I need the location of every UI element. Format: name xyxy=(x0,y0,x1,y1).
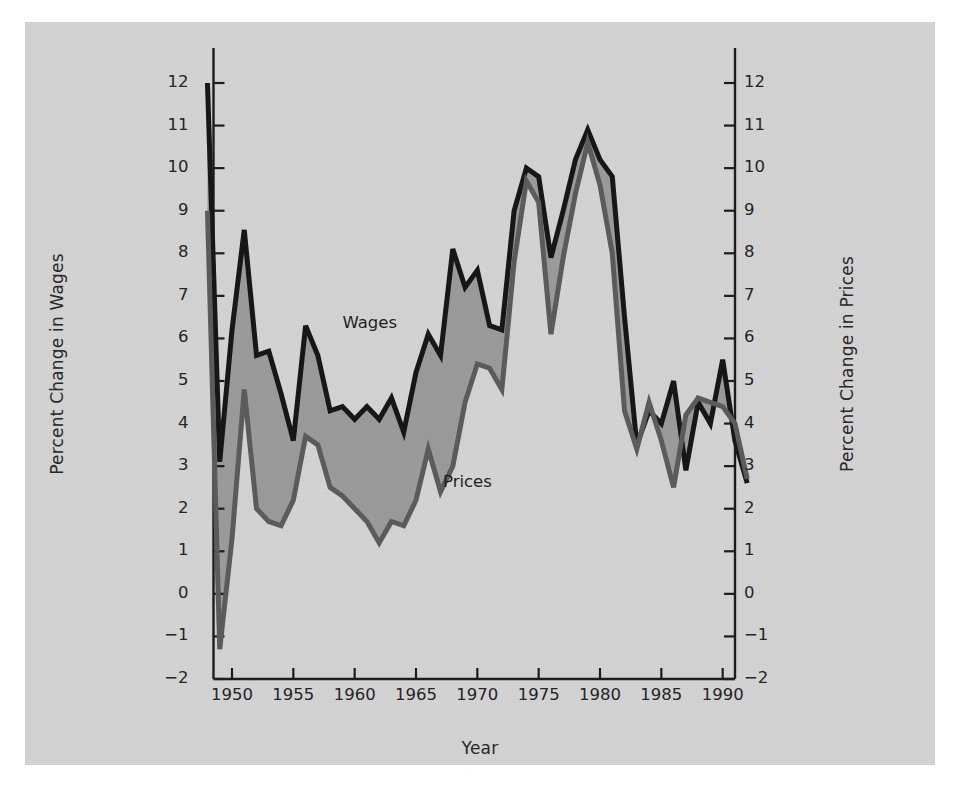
y-axis-right-tick-label: 2 xyxy=(744,498,778,517)
y-axis-right-tick-label: 8 xyxy=(744,242,778,261)
y-axis-right-tick-label: 5 xyxy=(744,370,778,389)
y-axis-right-tick-label: 6 xyxy=(744,327,778,346)
y-axis-right-tick-label: 7 xyxy=(744,285,778,304)
y-axis-left-tick-label: −1 xyxy=(155,625,189,644)
line-chart-plot xyxy=(0,0,967,798)
y-axis-right-tick-label: −1 xyxy=(744,625,778,644)
y-axis-left-tick-label: 1 xyxy=(155,540,189,559)
x-axis-tick-label: 1950 xyxy=(197,685,267,704)
y-axis-left-tick-label: 11 xyxy=(155,115,189,134)
x-axis-tick-label: 1990 xyxy=(688,685,758,704)
y-axis-left-tick-label: 4 xyxy=(155,413,189,432)
y-axis-right-tick-label: 4 xyxy=(744,413,778,432)
y-axis-right-tick-label: 11 xyxy=(744,115,778,134)
y-axis-right-tick-label: 3 xyxy=(744,455,778,474)
chart-figure-panel: Percent Change in Wages Percent Change i… xyxy=(25,22,935,765)
y-axis-right-tick-label: 12 xyxy=(744,72,778,91)
y-axis-left-tick-label: 6 xyxy=(155,327,189,346)
x-axis-tick-label: 1970 xyxy=(442,685,512,704)
y-axis-left-tick-label: 10 xyxy=(155,157,189,176)
y-axis-left-tick-label: 8 xyxy=(155,242,189,261)
y-axis-left-tick-label: 9 xyxy=(155,200,189,219)
x-axis-tick-label: 1960 xyxy=(320,685,390,704)
y-axis-left-tick-label: 5 xyxy=(155,370,189,389)
series-annotation-prices: Prices xyxy=(443,472,492,491)
y-axis-left-tick-label: 0 xyxy=(155,583,189,602)
y-axis-right-tick-label: 9 xyxy=(744,200,778,219)
y-axis-right-tick-label: 10 xyxy=(744,157,778,176)
x-axis-tick-label: 1955 xyxy=(258,685,328,704)
y-axis-right-tick-label: 1 xyxy=(744,540,778,559)
x-axis-tick-label: 1980 xyxy=(565,685,635,704)
series-line-prices xyxy=(207,143,747,650)
y-axis-left-tick-label: −2 xyxy=(155,668,189,687)
y-axis-right-tick-label: 0 xyxy=(744,583,778,602)
y-axis-left-tick-label: 2 xyxy=(155,498,189,517)
y-axis-left-tick-label: 7 xyxy=(155,285,189,304)
x-axis-tick-label: 1985 xyxy=(626,685,696,704)
series-annotation-wages: Wages xyxy=(342,313,397,332)
x-axis-tick-label: 1965 xyxy=(381,685,451,704)
y-axis-left-tick-label: 12 xyxy=(155,72,189,91)
x-axis-tick-label: 1975 xyxy=(504,685,574,704)
y-axis-left-tick-label: 3 xyxy=(155,455,189,474)
